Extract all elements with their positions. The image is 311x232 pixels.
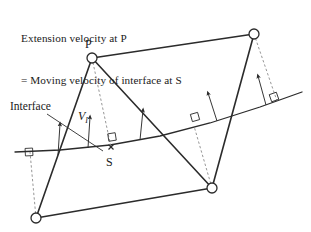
node-p: [87, 53, 97, 63]
perpendicular-construction-lines: [30, 34, 277, 218]
node-bottom-right: [207, 183, 217, 193]
node-bottom-left: [31, 213, 41, 223]
label-velocity-vi: VI: [78, 109, 88, 125]
label-interface: Interface: [10, 100, 51, 112]
velocity-arrow-3: [140, 110, 143, 140]
figure-root: Extension velocity at P = Moving velocit…: [0, 0, 311, 232]
label-point-p: P: [85, 37, 92, 51]
velocity-arrow-2: [88, 117, 90, 148]
velocity-arrow-5: [258, 76, 266, 105]
right-angle-at-s: [108, 133, 117, 142]
interface-leader-line: [47, 114, 103, 151]
velocity-arrow-4: [208, 93, 217, 121]
right-angle-markers: [25, 92, 279, 156]
normal-topright-to-interface: [254, 34, 277, 101]
interface-curve: [15, 92, 302, 152]
interface-curve-group: [15, 92, 302, 152]
edge-p-topright: [92, 34, 254, 58]
node-top-right: [249, 29, 259, 39]
mesh-edges: [36, 34, 254, 218]
right-angle-mid-right: [190, 112, 199, 121]
normal-bottomleft-to-interface: [30, 152, 36, 218]
velocity-diagram: P S Interface VI: [0, 0, 311, 232]
edge-bottomleft-bottomright: [36, 188, 212, 218]
label-point-s: S: [106, 155, 113, 169]
